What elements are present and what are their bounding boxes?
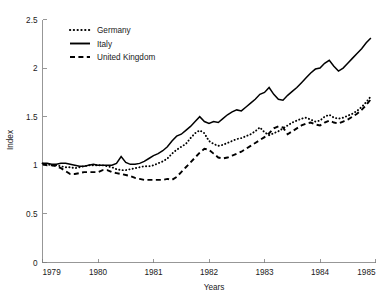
y-tick-label: 1 (33, 161, 38, 170)
x-tick-label: 1985 (357, 268, 376, 277)
y-axis-tick-labels: 00.511.522.5 (26, 16, 38, 268)
series-line-united-kingdom (43, 99, 371, 180)
y-tick-label: 0.5 (26, 210, 38, 219)
x-axis-ticks (43, 259, 376, 263)
chart-legend: GermanyItalyUnited Kingdom (70, 26, 155, 62)
series-line-italy (43, 38, 371, 166)
y-tick-label: 2 (33, 64, 38, 73)
x-tick-label: 1984 (311, 268, 330, 277)
y-axis-ticks (43, 20, 47, 263)
x-tick-label: 1982 (200, 268, 219, 277)
legend-label-united-kingdom: United Kingdom (97, 53, 155, 62)
x-tick-label: 1979 (43, 268, 62, 277)
x-tick-label: 1981 (144, 268, 163, 277)
chart-figure: 00.511.522.5 197919801981198219831984198… (0, 0, 388, 295)
y-axis-title: Index (6, 130, 15, 150)
x-tick-label: 1980 (89, 268, 108, 277)
x-axis-tick-labels: 1979198019811982198319841985 (43, 268, 376, 277)
y-tick-label: 1.5 (26, 113, 38, 122)
x-tick-label: 1983 (255, 268, 274, 277)
chart-series (43, 38, 371, 180)
line-chart: 00.511.522.5 197919801981198219831984198… (0, 0, 388, 295)
y-tick-label: 2.5 (26, 16, 38, 25)
series-line-germany (43, 96, 371, 170)
legend-label-italy: Italy (97, 40, 113, 49)
legend-label-germany: Germany (97, 26, 132, 35)
x-axis-title: Years (204, 283, 225, 292)
y-tick-label: 0 (33, 259, 38, 268)
